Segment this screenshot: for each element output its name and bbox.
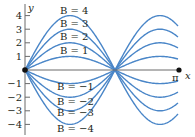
y-tick-label: 1	[16, 51, 22, 62]
curve-label: B = 2	[60, 31, 88, 42]
curve-label: B = −4	[57, 123, 94, 134]
x-axis-label: x	[185, 70, 191, 81]
curve-label: B = −1	[57, 81, 94, 92]
curve-label: B = 4	[60, 5, 88, 16]
chart: 4321−1−2−3−4 y x π B = 4B = 3B = 2B = 1B…	[0, 0, 195, 137]
y-axis-label: y	[27, 2, 34, 13]
pi-tick-label: π	[172, 72, 179, 83]
y-tick-label: −4	[7, 119, 22, 130]
y-tick-label: −3	[7, 105, 22, 116]
y-tick-label: 3	[16, 24, 22, 35]
curve-label: B = 3	[60, 18, 88, 29]
y-tick-label: 4	[16, 10, 22, 21]
origin-point	[22, 67, 28, 73]
curve-label: B = −2	[57, 96, 94, 107]
y-tick-label: 2	[16, 37, 22, 48]
curve-label: B = 1	[60, 45, 88, 56]
curve-label: B = −3	[57, 107, 94, 118]
y-tick-label: −1	[7, 78, 22, 89]
pi-point	[176, 67, 181, 72]
y-tick-label: −2	[7, 92, 22, 103]
